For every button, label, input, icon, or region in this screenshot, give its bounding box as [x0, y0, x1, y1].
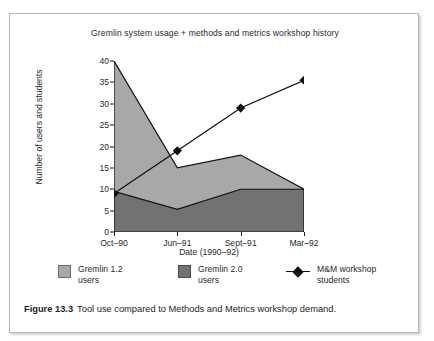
y-tick-mark	[110, 103, 114, 104]
legend-entry-mm-workshop: M&M workshop students	[286, 264, 376, 286]
y-axis-title: Number of users and students	[34, 52, 44, 202]
y-tick-mark	[110, 189, 114, 190]
y-tick-mark	[110, 82, 114, 83]
figure-caption-number: Figure 13.3	[24, 304, 73, 314]
y-tick-label: 40	[99, 56, 109, 66]
y-tick-label: 30	[99, 99, 109, 109]
y-tick-label: 10	[99, 184, 109, 194]
legend-entry-gremlin-1-2: Gremlin 1.2 users	[58, 264, 122, 286]
chart-region: Gremlin system usage + methods and metri…	[10, 14, 418, 299]
x-tick-mark	[114, 232, 115, 236]
x-tick-mark	[177, 232, 178, 236]
plot-area: 0510152025303540 Oct–90Jun–91Sept–91Mar–…	[114, 61, 304, 232]
figure-frame: Gremlin system usage + methods and metri…	[9, 13, 419, 333]
data-point-marker	[236, 103, 245, 112]
y-tick-label: 35	[99, 77, 109, 87]
y-tick-mark	[110, 125, 114, 126]
data-point-marker	[299, 76, 304, 85]
legend-swatch-icon-gremlin-1-2	[58, 265, 71, 278]
y-tick-label: 15	[99, 163, 109, 173]
chart-plot-svg	[114, 61, 304, 232]
y-tick-label: 5	[104, 206, 109, 216]
x-axis-title: Date (1990–92)	[114, 247, 304, 257]
y-tick-mark	[110, 210, 114, 211]
x-tick-mark	[241, 232, 242, 236]
figure-caption-text: Tool use compared to Methods and Metrics…	[77, 304, 336, 314]
chart-title: Gremlin system usage + methods and metri…	[90, 28, 340, 40]
y-tick-mark	[110, 61, 114, 62]
data-point-marker	[173, 146, 182, 155]
legend-diamond-icon	[292, 266, 303, 277]
chart-legend: Gremlin 1.2 users Gremlin 2.0 users M&M …	[58, 264, 398, 298]
legend-label-mm-workshop: M&M workshop students	[317, 264, 376, 286]
figure-caption: Figure 13.3Tool use compared to Methods …	[24, 304, 404, 314]
legend-entry-gremlin-2-0: Gremlin 2.0 users	[178, 264, 242, 286]
y-tick-label: 25	[99, 120, 109, 130]
y-tick-label: 0	[104, 227, 109, 237]
legend-diamond-marker-icon	[286, 265, 310, 278]
legend-label-gremlin-1-2: Gremlin 1.2 users	[78, 264, 122, 286]
y-tick-mark	[110, 167, 114, 168]
legend-swatch-icon-gremlin-2-0	[178, 265, 191, 278]
x-tick-mark	[304, 232, 305, 236]
legend-label-gremlin-2-0: Gremlin 2.0 users	[198, 264, 242, 286]
y-tick-mark	[110, 146, 114, 147]
y-tick-label: 20	[99, 142, 109, 152]
